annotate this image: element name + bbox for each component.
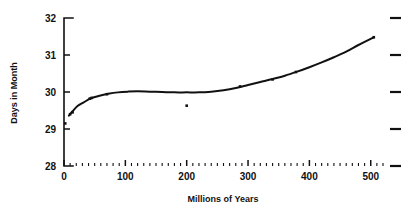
x-tick-label-100: 100 — [117, 171, 134, 182]
y-axis-title: Days in Month — [9, 62, 19, 124]
data-point — [373, 36, 376, 39]
y-tick-label-32: 32 — [45, 13, 57, 24]
y-tick-label-30: 30 — [45, 87, 57, 98]
data-point — [106, 93, 109, 96]
x-tick-label-300: 300 — [240, 171, 257, 182]
x-tick-label-500: 500 — [362, 171, 379, 182]
fit-curve — [69, 37, 374, 115]
data-point — [271, 78, 274, 81]
data-point — [295, 71, 298, 74]
data-point — [90, 97, 93, 100]
data-points — [64, 36, 375, 125]
y-tick-label-31: 31 — [45, 50, 57, 61]
data-point — [64, 122, 67, 125]
x-axis-title: Millions of Years — [188, 194, 259, 204]
y-axis-tick-labels: 2829303132 — [45, 13, 57, 172]
x-tick-label-200: 200 — [178, 171, 195, 182]
x-tick-label-400: 400 — [301, 171, 318, 182]
y-tick-label-29: 29 — [45, 124, 57, 135]
x-axis-minor-ticks — [70, 163, 383, 166]
right-axis-tick-marks — [390, 18, 401, 166]
data-point — [71, 111, 74, 114]
data-point — [69, 113, 72, 116]
x-tick-label-0: 0 — [61, 171, 67, 182]
x-axis-tick-labels: 0100200300400500 — [61, 171, 379, 182]
y-tick-label-28: 28 — [45, 161, 57, 172]
data-point — [239, 85, 242, 88]
chart-figure: 2829303132 0100200300400500 Millions of … — [0, 0, 410, 215]
y-axis-tick-marks — [64, 55, 70, 129]
data-point — [185, 104, 188, 107]
